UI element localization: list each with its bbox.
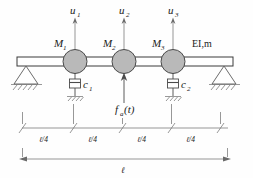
- dof-label-u3-base: u: [168, 4, 174, 16]
- segment-label-2: ℓ/4: [88, 135, 97, 144]
- damper-c1: [67, 73, 84, 101]
- total-span-dimension-line: [19, 148, 231, 161]
- lumped-mass-m2: [112, 50, 136, 74]
- damper-label-c1-base: c: [83, 78, 88, 90]
- dof-label-u1-base: u: [70, 4, 76, 16]
- dof-label-u2-base: u: [119, 4, 125, 16]
- damper-c2: [165, 73, 182, 101]
- applied-force-arrow: [121, 73, 127, 104]
- segment-label-1: ℓ/4: [39, 135, 48, 144]
- beam-diagram-figure: u 1 u 2 u 3: [0, 0, 253, 178]
- applied-force-label-arg: (t): [124, 103, 135, 116]
- mass-label-m3-sub: 3: [160, 44, 165, 52]
- mass-label-m1-sub: 1: [63, 44, 67, 52]
- damper-label-c2-base: c: [181, 78, 186, 90]
- lumped-mass-m3: [161, 50, 185, 74]
- mass-label-m2-sub: 2: [112, 44, 116, 52]
- segment-label-4: ℓ/4: [186, 135, 195, 144]
- damper-label-c1-sub: 1: [89, 85, 93, 93]
- pin-support-right: [209, 66, 240, 90]
- dof-label-u1-sub: 1: [77, 11, 81, 19]
- lumped-mass-m1: [63, 50, 87, 74]
- beam-property-label: EI,m: [192, 38, 212, 49]
- dof-label-u2-sub: 2: [126, 11, 130, 19]
- segment-label-3: ℓ/4: [137, 135, 146, 144]
- damper-label-c2-sub: 2: [187, 85, 191, 93]
- dof-label-u3-sub: 3: [174, 11, 179, 19]
- pin-support-left: [11, 66, 42, 90]
- total-span-label: ℓ: [121, 165, 125, 175]
